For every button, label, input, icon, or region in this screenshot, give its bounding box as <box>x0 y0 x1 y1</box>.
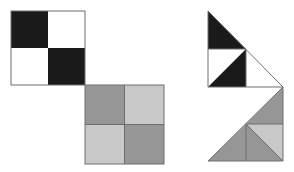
cell-bottom-left <box>85 125 125 165</box>
cell-top-left <box>11 11 48 48</box>
gray-checker-square <box>85 85 164 164</box>
cell-bottom-left <box>11 48 48 85</box>
cell-top-right <box>125 85 165 125</box>
cell-bottom-right <box>125 125 165 165</box>
black-white-checker-square <box>11 11 85 85</box>
cell-top-left <box>85 85 125 125</box>
cell-top-right <box>48 11 85 48</box>
dissection-figure: Checkerboard squares and triangular rear… <box>0 0 294 172</box>
cell-bottom-right <box>48 48 85 85</box>
